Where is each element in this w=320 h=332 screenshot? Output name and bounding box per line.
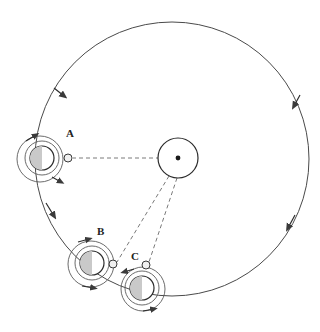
system-c-satellite [142, 261, 150, 269]
system-a-planet-shading [30, 146, 42, 170]
system-a [17, 135, 72, 182]
system-c [121, 261, 165, 311]
central-body-center-dot [176, 156, 181, 161]
system-a-satellite [64, 154, 72, 162]
system-a-rotation-arrow-top [26, 135, 36, 141]
main-orbit-arrow-upper-left [54, 88, 64, 96]
orbital-diagram-svg [0, 0, 320, 332]
label-system-a: A [66, 128, 74, 139]
system-b-satellite [109, 260, 117, 268]
dashed-line-to-b [117, 176, 169, 262]
figure-canvas: A B C [0, 0, 320, 332]
main-orbit-arrow-upper-right [294, 95, 300, 106]
main-orbit-arrow-lower-left [46, 203, 54, 216]
label-system-b: B [97, 226, 104, 237]
system-a-rotation-arrow-bottom [52, 177, 61, 182]
system-b-planet-shading [80, 251, 92, 275]
central-body [158, 138, 198, 178]
system-c-planet-shading [130, 276, 142, 300]
label-system-c: C [131, 251, 139, 262]
dashed-line-to-c [149, 178, 177, 262]
